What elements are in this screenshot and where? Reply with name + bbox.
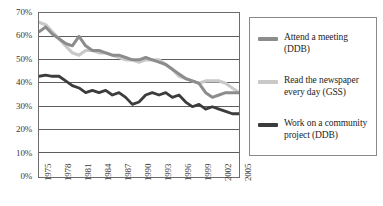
x-axis-label: 2005 — [243, 164, 253, 181]
legend-label-line2: (DDB) — [284, 44, 310, 54]
x-axis-label: 1978 — [63, 164, 73, 181]
x-axis-label: 1975 — [43, 164, 53, 181]
x-axis-label: 1996 — [183, 164, 193, 181]
y-axis-label: 20% — [0, 124, 32, 134]
x-axis-label: 1987 — [123, 164, 133, 181]
series-lines — [39, 13, 239, 177]
chart-legend: Attend a meeting (DDB) Read the newspape… — [249, 17, 377, 156]
y-axis-label: 0% — [0, 171, 32, 181]
legend-label-line1: Work on a community — [284, 118, 367, 128]
x-axis-label: 1981 — [83, 164, 93, 181]
y-axis-label: 10% — [0, 148, 32, 158]
legend-label: Attend a meeting (DDB) — [284, 32, 348, 55]
legend-swatch-icon — [258, 80, 278, 84]
y-axis-label: 70% — [0, 7, 32, 17]
legend-label-line1: Read the newspaper — [284, 75, 359, 85]
legend-label-line2: project (DDB) — [284, 130, 338, 140]
legend-label: Read the newspaper every day (GSS) — [284, 75, 359, 98]
legend-label-line1: Attend a meeting — [284, 32, 348, 42]
chart-container: 70% 60% 50% 40% 30% 20% 10% 0% 1975 1978… — [0, 0, 383, 206]
legend-swatch-icon — [258, 37, 278, 41]
legend-item-attend-meeting: Attend a meeting (DDB) — [258, 32, 374, 55]
y-axis-label: 50% — [0, 54, 32, 64]
legend-label-line2: every day (GSS) — [284, 87, 346, 97]
y-axis-label: 30% — [0, 101, 32, 111]
legend-item-community-project: Work on a community project (DDB) — [258, 118, 374, 141]
x-axis-label: 1993 — [163, 164, 173, 181]
legend-swatch-icon — [258, 123, 278, 127]
legend-label: Work on a community project (DDB) — [284, 118, 367, 141]
x-axis-label: 1984 — [103, 164, 113, 181]
y-axis-label: 40% — [0, 77, 32, 87]
x-axis-label: 2002 — [223, 164, 233, 181]
legend-item-read-newspaper: Read the newspaper every day (GSS) — [258, 75, 374, 98]
x-axis-label: 1999 — [203, 164, 213, 181]
y-axis-label: 60% — [0, 30, 32, 40]
x-axis-label: 1990 — [143, 164, 153, 181]
